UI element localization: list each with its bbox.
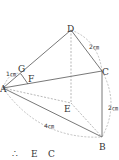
measure-dc: 2㎝ (89, 43, 99, 50)
edge-ad (3, 30, 71, 88)
label-g: G (18, 64, 25, 74)
edge-ae (3, 88, 71, 103)
edge-dc (71, 30, 102, 71)
label-c: C (102, 67, 109, 77)
pyramid-diagram: A B C D E F G 1㎝ 2㎝ 2㎝ 4㎝ ∴ E C (0, 0, 119, 160)
label-e: E (64, 104, 71, 114)
edge-eb (71, 103, 102, 137)
label-a: A (0, 84, 7, 94)
edge-ab (3, 88, 102, 137)
label-b: B (99, 142, 106, 152)
fragment-3: C (48, 149, 55, 159)
measure-cb: 2㎝ (108, 104, 118, 111)
label-d: D (67, 24, 74, 34)
measure-ab: 4㎝ (44, 122, 54, 129)
fragment-2: E (31, 149, 38, 159)
measure-ag: 1㎝ (6, 70, 16, 77)
fragment-1: ∴ (12, 149, 18, 159)
label-f: F (28, 74, 34, 84)
segment-gf (21, 74, 28, 84)
